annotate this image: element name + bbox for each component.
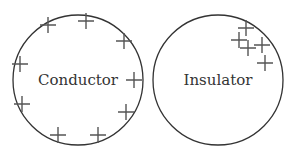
plus-charge-icon (231, 32, 247, 48)
plus-charge-icon (254, 37, 270, 53)
conductor-group: Conductor (12, 13, 143, 145)
plus-charge-icon (116, 33, 132, 49)
insulator-charges (231, 20, 273, 71)
plus-charge-icon (14, 96, 30, 112)
plus-charge-icon (257, 55, 273, 71)
plus-charge-icon (238, 20, 254, 36)
charge-distribution-diagram: Conductor Insulator (0, 0, 301, 161)
plus-charge-icon (126, 72, 142, 88)
insulator-group: Insulator (153, 15, 283, 145)
plus-charge-icon (240, 40, 256, 56)
plus-charge-icon (90, 127, 106, 143)
plus-charge-icon (50, 127, 66, 143)
insulator-label: Insulator (184, 71, 254, 89)
conductor-label: Conductor (38, 71, 119, 89)
